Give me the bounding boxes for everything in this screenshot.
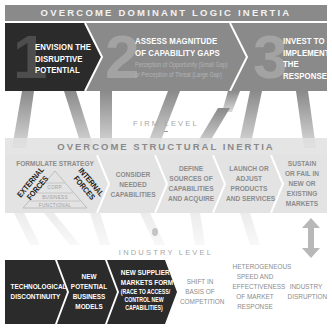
step-1-label: ENVISION THE DISRUPTIVE POTENTIAL: [35, 41, 91, 76]
new-supplier-markets-step: NEW SUPPLIER MARKETS FORM (RACE TO ACCES…: [121, 268, 167, 312]
pyramid-corp: CORP.: [38, 184, 72, 190]
firm-level-mark: [164, 131, 168, 132]
sustain-or-fail-step: SUSTAIN OR FAIL IN NEW OR EXISTING MARKE…: [282, 159, 323, 209]
launch-products-step: LAUNCH OR ADJUST PRODUCTS AND SERVICES: [226, 164, 272, 204]
shift-basis-competition-step: SHIFT IN BASIS OF COMPETITION: [180, 277, 220, 307]
industry-level-label: INDUSTRY LEVEL: [0, 248, 332, 257]
firm-level-label: FIRM LEVEL: [0, 119, 332, 128]
step-2-label: ASSESS MAGNITUDE OF CAPABILITY GAPS: [135, 35, 220, 58]
step-2-sublabel: Perception of Opportunity (Small Gap) or…: [135, 60, 228, 80]
consider-capabilities-step: CONSIDER NEEDED CAPABILITIES: [110, 170, 156, 200]
technological-discontinuity-step: TECHNOLOGICAL DISCONTINUITY: [11, 282, 56, 302]
heterogeneous-speed-step: HETEROGENEOUS SPEED AND EFFECTIVENESS OF…: [233, 262, 278, 312]
industry-disruption-step: INDUSTRY DISRUPTION: [288, 282, 325, 302]
dominant-logic-banner: OVERCOME DOMINANT LOGIC INERTIA: [5, 5, 327, 21]
step-3-label: INVEST TO IMPLEMENT THE RESPONSE: [283, 35, 330, 81]
define-sources-step: DEFINE SOURCES OF CAPABILITIES AND ACQUI…: [168, 164, 214, 204]
bottom-steps-band: TECHNOLOGICAL DISCONTINUITY NEW POTENTIA…: [5, 258, 327, 326]
top-steps-band: 1 ENVISION THE DISRUPTIVE POTENTIAL 2 AS…: [5, 23, 327, 91]
structural-inertia-banner: OVERCOME STRUCTURAL INERTIA: [5, 138, 327, 155]
new-business-models-step: NEW POTENTIAL BUSINESS MODELS: [70, 272, 108, 312]
pyramid-business: BUSINESS: [38, 194, 72, 200]
